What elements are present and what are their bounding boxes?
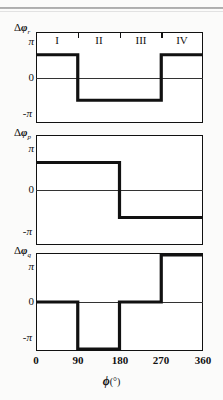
panel-bottom-ytick-zero: 0 (8, 296, 34, 307)
panel-middle-subscript: p (28, 133, 32, 141)
x-axis-title-unit: (°) (110, 376, 121, 387)
x-tick-label-90: 90 (63, 354, 93, 366)
phase-step-figure: I II III IV Δφr π 0 -π (0, 0, 223, 400)
panel-top-ytick-negpi: -π (6, 108, 32, 119)
panel-top-ytick-zero: 0 (8, 72, 34, 83)
panel-bottom-ytick-pi: π (8, 261, 34, 272)
panel-middle-ytick-zero: 0 (8, 184, 34, 195)
x-tick-label-0: 0 (21, 354, 51, 366)
panel-middle-axis-title: Δφp (14, 127, 31, 143)
panel-bottom-axis-title: Δφq (14, 245, 31, 261)
panel-middle-ytick-negpi: -π (6, 226, 32, 237)
panel-bottom-ytick-negpi: -π (6, 332, 32, 343)
panel-bottom-subscript: q (28, 251, 32, 259)
panel-middle-ytick-pi: π (8, 143, 34, 154)
panel-top: I II III IV (36, 32, 203, 123)
x-tick-label-row: 0 90 180 270 360 (0, 354, 223, 368)
figure-page: I II III IV Δφr π 0 -π (0, 0, 223, 400)
x-tick-label-270: 270 (146, 354, 176, 366)
panel-top-trace (36, 32, 203, 123)
x-axis-title: ϕ(°) (0, 375, 223, 388)
panel-middle-trace (36, 135, 203, 245)
x-tick-label-360: 360 (188, 354, 218, 366)
x-axis-title-phi: ϕ (103, 374, 110, 388)
panel-bottom (36, 253, 203, 351)
panel-bottom-trace (36, 253, 203, 351)
panel-middle (36, 135, 203, 245)
x-tick-label-180: 180 (105, 354, 135, 366)
panel-top-ytick-pi: π (8, 36, 34, 47)
